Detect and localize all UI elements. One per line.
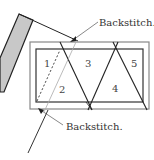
gray-bar [0, 14, 33, 92]
section-1: 1 [44, 58, 50, 69]
top-callout-leader [73, 22, 98, 40]
bottom-callout-leader [42, 111, 63, 125]
section-4: 4 [112, 83, 118, 94]
section-5: 5 [131, 58, 137, 69]
stitch-line-a [60, 42, 92, 110]
section-2: 2 [59, 84, 65, 95]
stitch-line-b [88, 42, 118, 110]
section-3: 3 [85, 58, 91, 69]
top-backstitch-label: Backstitch. [99, 17, 154, 28]
sewing-diagram: Backstitch. Backstitch. 1 2 3 4 5 [0, 0, 154, 160]
thread-line-bottom [28, 110, 48, 153]
bottom-backstitch-label: Backstitch. [66, 121, 123, 132]
top-arrow-icon [70, 36, 76, 42]
stitch-line-c [113, 42, 147, 110]
outer-border [30, 42, 149, 109]
